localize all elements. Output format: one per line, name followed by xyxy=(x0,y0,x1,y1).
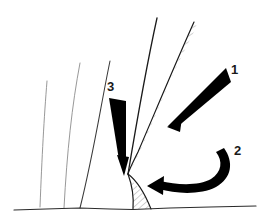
cross-section-diagram: 1 2 3 xyxy=(0,0,270,223)
label-2: 2 xyxy=(234,143,241,158)
label-3: 3 xyxy=(107,79,114,94)
figure-root: 1 2 3 xyxy=(0,0,270,223)
label-1: 1 xyxy=(231,62,238,77)
